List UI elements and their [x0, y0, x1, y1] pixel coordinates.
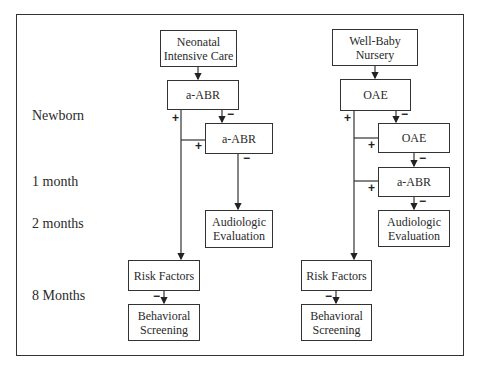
nicu-behavioral-box: Behavioral Screening	[128, 304, 200, 341]
timeline-2-months: 2 months	[32, 216, 84, 232]
nicu-aabr-2-box: a-ABR	[205, 123, 273, 154]
nicu-audiologic-box: Audiologic Evaluation	[205, 210, 273, 248]
nicu-risk-box: Risk Factors	[128, 260, 200, 291]
timeline-newborn: Newborn	[32, 108, 84, 124]
wbn-audiologic-box: Audiologic Evaluation	[378, 210, 450, 247]
wbn-audiologic-label: Audiologic Evaluation	[379, 215, 449, 243]
nicu-risk-label: Risk Factors	[134, 269, 194, 283]
timeline-1-month: 1 month	[32, 174, 78, 190]
wbn-oae-2-box: OAE	[378, 123, 450, 153]
nicu-audiologic-label: Audiologic Evaluation	[206, 215, 272, 243]
nicu-aabr-2-label: a-ABR	[222, 132, 256, 146]
nicu-aabr-1-label: a-ABR	[186, 88, 220, 102]
wbn-behavioral-label: Behavioral Screening	[302, 309, 371, 337]
wbn-pass-sign-3: +	[368, 182, 375, 194]
nicu-aabr-1-box: a-ABR	[167, 80, 239, 110]
nicu-refer-sign-2: −	[243, 152, 250, 164]
wbn-pass-sign-2: +	[368, 139, 375, 151]
wbn-aabr-box: a-ABR	[378, 167, 450, 197]
wbn-start-box: Well-Baby Nursery	[332, 29, 418, 66]
wbn-risk-label: Risk Factors	[306, 269, 366, 283]
wbn-refer-sign-4: −	[325, 290, 332, 302]
wbn-oae-2-label: OAE	[402, 131, 427, 145]
wbn-refer-sign-1: −	[401, 108, 408, 120]
wbn-refer-sign-3: −	[419, 195, 426, 207]
wbn-behavioral-box: Behavioral Screening	[301, 304, 372, 341]
nicu-pass-sign-1: +	[172, 112, 179, 124]
timeline-8-months: 8 Months	[32, 288, 85, 304]
wbn-start-label: Well-Baby Nursery	[333, 34, 417, 62]
nicu-refer-sign-1: −	[227, 108, 234, 120]
wbn-oae-1-label: OAE	[363, 88, 388, 102]
nicu-behavioral-label: Behavioral Screening	[129, 309, 199, 337]
nicu-refer-sign-3: −	[153, 290, 160, 302]
wbn-pass-sign-1: +	[344, 112, 351, 124]
nicu-start-box: Neonatal Intensive Care	[160, 30, 237, 67]
wbn-risk-box: Risk Factors	[301, 260, 372, 291]
nicu-pass-sign-2: +	[195, 140, 202, 152]
wbn-refer-sign-2: −	[419, 152, 426, 164]
wbn-aabr-label: a-ABR	[397, 175, 431, 189]
nicu-start-label: Neonatal Intensive Care	[161, 35, 236, 63]
